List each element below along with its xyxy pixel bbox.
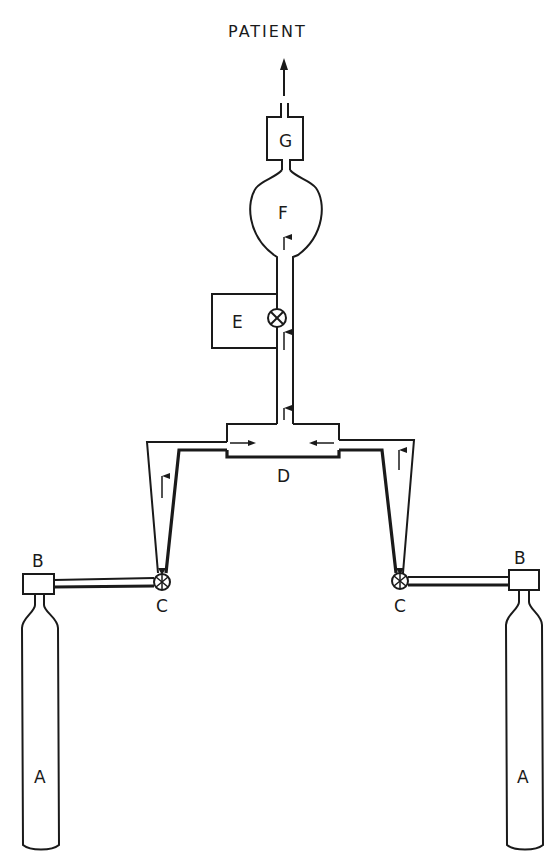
patient-outlet-arrow — [280, 58, 288, 96]
label-e: E — [232, 312, 243, 332]
right-valve-c: C — [392, 568, 408, 616]
left-valve-c: C — [154, 568, 170, 616]
label-c-left: C — [156, 596, 168, 616]
right-flowmeter-tube — [339, 440, 414, 573]
label-b-right: B — [514, 548, 526, 568]
label-f: F — [278, 203, 288, 223]
right-regulator-b: B — [509, 548, 539, 590]
label-b-left: B — [32, 551, 44, 571]
left-supply-pipe — [54, 578, 154, 587]
patient-label: PATIENT — [228, 22, 307, 41]
component-e: E — [212, 294, 286, 348]
gas-delivery-diagram: PATIENT G F E D — [0, 0, 560, 865]
label-c-right: C — [394, 596, 406, 616]
component-f: F — [250, 170, 322, 262]
e-valve-icon — [268, 309, 286, 327]
main-vertical-pipe — [277, 262, 293, 424]
left-flowmeter-tube — [147, 442, 227, 573]
right-supply-pipe — [408, 577, 509, 585]
component-g: G — [267, 103, 303, 170]
right-cylinder-a: A — [506, 590, 543, 850]
label-a-left: A — [34, 767, 46, 787]
label-d: D — [277, 466, 290, 486]
label-a-right: A — [517, 767, 529, 787]
left-regulator-b: B — [23, 551, 54, 594]
component-d: D — [227, 424, 339, 486]
left-cylinder-a: A — [22, 594, 59, 850]
label-g: G — [279, 131, 292, 151]
